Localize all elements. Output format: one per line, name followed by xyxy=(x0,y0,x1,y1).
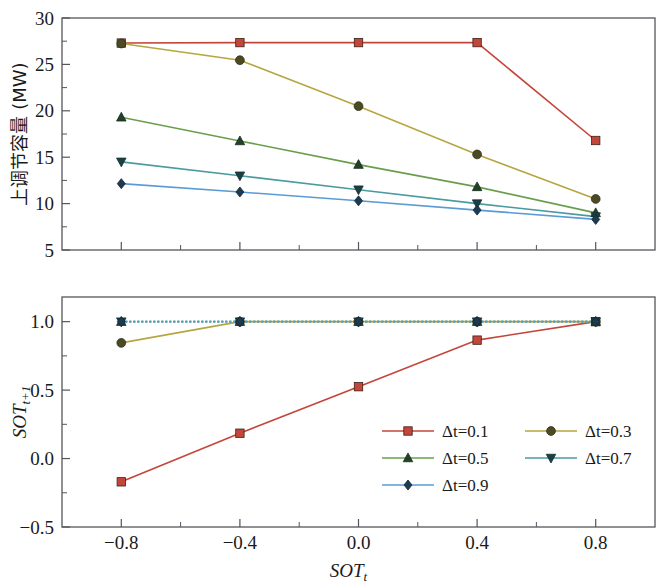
marker-square xyxy=(473,336,481,344)
legend-label: Δt=0.7 xyxy=(585,449,632,468)
legend-label: Δt=0.9 xyxy=(442,476,489,495)
x-axis-title-main: SOT xyxy=(330,560,365,581)
legend-entry-Δt-0-1[interactable]: Δt=0.1 xyxy=(382,422,489,441)
legend-entry-Δt-0-5[interactable]: Δt=0.5 xyxy=(382,449,489,468)
chart-svg: 51015202530−0.8−0.40.00.40.8−0.50.00.51.… xyxy=(0,0,670,584)
series-line-Δt-0-1 xyxy=(121,322,595,482)
marker-circle xyxy=(354,102,363,111)
series-line-Δt-0-3 xyxy=(121,44,595,199)
y-tick-label: 5 xyxy=(45,240,55,261)
y-tick-label: 15 xyxy=(35,147,54,168)
marker-circle xyxy=(591,195,600,204)
marker-square xyxy=(473,38,481,46)
marker-circle xyxy=(547,427,556,436)
legend: Δt=0.1Δt=0.3Δt=0.5Δt=0.7Δt=0.9 xyxy=(382,422,632,495)
series-markers-Δt-0-9 xyxy=(117,179,599,225)
marker-square xyxy=(404,427,412,435)
upper-y-axis-title: 上调节容量 (MW) xyxy=(9,62,30,205)
lower-y-axis-title-sub: t+1 xyxy=(18,386,33,405)
marker-diamond xyxy=(404,480,412,490)
figure-container: 51015202530−0.8−0.40.00.40.8−0.50.00.51.… xyxy=(0,0,670,584)
legend-label: Δt=0.1 xyxy=(442,422,489,441)
marker-diamond xyxy=(355,196,363,206)
plot-frame xyxy=(62,18,655,250)
plot-frame xyxy=(62,297,655,527)
lower-y-axis-title: SOTt+1 xyxy=(9,386,33,439)
legend-entry-Δt-0-7[interactable]: Δt=0.7 xyxy=(525,449,632,468)
x-tick-label: 0.8 xyxy=(584,532,608,553)
marker-square xyxy=(354,382,362,390)
marker-square xyxy=(236,38,244,46)
x-axis-title-sub: t xyxy=(364,569,368,584)
marker-square xyxy=(592,136,600,144)
y-tick-label: 1.0 xyxy=(30,311,54,332)
series-markers-Δt-0-3 xyxy=(117,39,600,203)
marker-circle xyxy=(473,150,482,159)
series-markers-Δt-0-1 xyxy=(117,38,600,144)
marker-triangle-up xyxy=(117,112,127,121)
x-tick-label: −0.8 xyxy=(104,532,138,553)
panel-lower: −0.8−0.40.00.40.8−0.50.00.51.0 xyxy=(20,297,655,553)
legend-entry-Δt-0-9[interactable]: Δt=0.9 xyxy=(382,476,489,495)
y-tick-label: 0.0 xyxy=(30,448,54,469)
legend-label: Δt=0.3 xyxy=(585,422,632,441)
x-tick-label: 0.4 xyxy=(465,532,489,553)
x-tick-label: 0.0 xyxy=(347,532,371,553)
marker-square xyxy=(354,38,362,46)
legend-entry-Δt-0-3[interactable]: Δt=0.3 xyxy=(525,422,632,441)
marker-square xyxy=(117,478,125,486)
legend-label: Δt=0.5 xyxy=(442,449,489,468)
y-tick-label: 10 xyxy=(35,193,54,214)
series-markers-Δt-0-1 xyxy=(117,317,600,486)
lower-y-axis-title-main: SOT xyxy=(9,403,30,438)
marker-diamond xyxy=(117,179,125,189)
panel-upper: 51015202530 xyxy=(35,8,655,261)
marker-circle xyxy=(117,338,126,347)
marker-circle xyxy=(117,39,126,48)
series-line-Δt-0-1 xyxy=(121,43,595,141)
y-tick-label: 0.5 xyxy=(30,380,54,401)
x-tick-label: −0.4 xyxy=(223,532,258,553)
y-tick-label: 20 xyxy=(35,100,54,121)
marker-square xyxy=(236,429,244,437)
y-tick-label: 30 xyxy=(35,8,54,29)
marker-diamond xyxy=(473,205,481,215)
x-axis-title: SOTt xyxy=(330,560,368,584)
marker-circle xyxy=(236,56,245,65)
y-tick-label: −0.5 xyxy=(20,517,54,538)
y-tick-label: 25 xyxy=(35,54,54,75)
marker-diamond xyxy=(236,187,244,197)
